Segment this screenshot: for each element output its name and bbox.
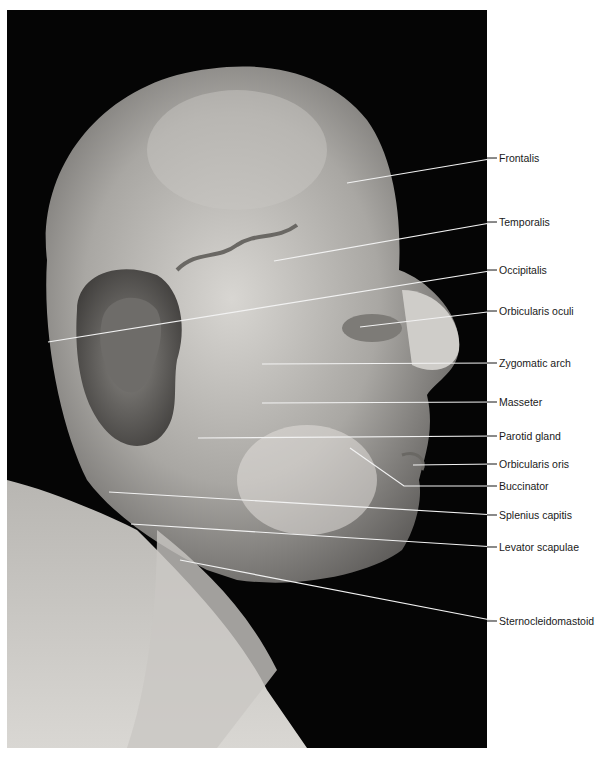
dissection-photo [7, 10, 487, 748]
label-sternocleidomastoid: Sternocleidomastoid [499, 615, 594, 627]
label-temporalis: Temporalis [499, 216, 550, 228]
label-buccinator: Buccinator [499, 480, 549, 492]
label-frontalis: Frontalis [499, 152, 539, 164]
label-levator-scapulae: Levator scapulae [499, 541, 579, 553]
label-occipitalis: Occipitalis [499, 264, 547, 276]
head-silhouette [7, 10, 487, 748]
label-splenius-capitis: Splenius capitis [499, 509, 572, 521]
label-orbicularis-oculi: Orbicularis oculi [499, 305, 574, 317]
label-zygomatic-arch: Zygomatic arch [499, 357, 571, 369]
label-masseter: Masseter [499, 396, 542, 408]
label-orbicularis-oris: Orbicularis oris [499, 458, 569, 470]
label-parotid-gland: Parotid gland [499, 430, 561, 442]
